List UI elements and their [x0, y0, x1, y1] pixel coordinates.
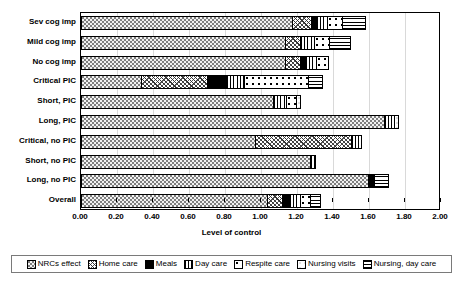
bar-segment: [308, 75, 322, 89]
x-axis-tickmark: [440, 198, 441, 202]
x-axis-tickmark: [260, 198, 261, 202]
x-axis-tick: 0.00: [60, 212, 100, 221]
chart-container: Sev cog impMild cog impNo cog impCritica…: [0, 0, 463, 281]
bar-segment: [351, 135, 362, 149]
bar-segment: [327, 16, 343, 30]
plot-area: [80, 12, 440, 210]
bar-segment: [310, 155, 315, 169]
legend-label: Home care: [99, 259, 138, 269]
x-axis-tickmark: [224, 198, 225, 202]
bar-segment: [316, 56, 329, 70]
x-axis-tick: 1.00: [240, 212, 280, 221]
x-axis-tickmark: [152, 198, 153, 202]
bar-row: [81, 115, 399, 129]
y-axis-label: Critical PIC: [0, 76, 76, 86]
x-axis-tickmark: [404, 198, 405, 202]
x-axis-tick: 1.60: [348, 212, 388, 221]
bar-segment: [81, 16, 293, 30]
legend-label: NRCs effect: [38, 259, 81, 269]
y-axis-label: Long, no PIC: [0, 175, 76, 185]
bar-segment: [394, 115, 399, 129]
bar-segment: [81, 174, 369, 188]
x-axis-tick: 0.60: [168, 212, 208, 221]
bar-segment: [285, 56, 301, 70]
legend-item[interactable]: NRCs effect: [27, 259, 81, 269]
legend-label: Meals: [156, 259, 177, 269]
legend-item[interactable]: Respite care: [234, 259, 290, 269]
bar-row: [81, 36, 351, 50]
bar-row: [81, 75, 323, 89]
bar-segment: [292, 16, 312, 30]
x-axis-tickmark: [332, 198, 333, 202]
x-axis-tickmark: [116, 198, 117, 202]
bar-row: [81, 155, 316, 169]
x-axis-tick: 2.00: [420, 212, 460, 221]
x-axis-tickmark: [368, 198, 369, 202]
bar-segment: [81, 95, 274, 109]
y-axis-label: Overall: [0, 195, 76, 205]
bar-segment: [342, 16, 365, 30]
y-axis-label: Long, PIC: [0, 116, 76, 126]
legend-swatch-icon: [363, 260, 372, 269]
bar-segment: [374, 174, 388, 188]
bar-segment: [81, 75, 142, 89]
bar-segment: [81, 155, 311, 169]
legend-swatch-icon: [27, 260, 36, 269]
bar-row: [81, 174, 389, 188]
bar-segment: [255, 135, 352, 149]
bar-segment: [300, 36, 314, 50]
x-axis-tick: 1.80: [384, 212, 424, 221]
bar-row: [81, 16, 366, 30]
legend-swatch-icon: [234, 260, 243, 269]
legend-item[interactable]: Home care: [88, 259, 138, 269]
bar-segment: [81, 115, 385, 129]
bar-segment: [141, 75, 208, 89]
legend-label: Respite care: [245, 259, 290, 269]
y-axis-label: Short, no PIC: [0, 156, 76, 166]
y-axis-label: Sev cog imp: [0, 17, 76, 27]
bar-segment: [285, 36, 301, 50]
legend-item[interactable]: Meals: [145, 259, 177, 269]
bar-row: [81, 56, 329, 70]
bar-segment: [81, 135, 256, 149]
bars-layer: [81, 13, 439, 209]
legend-swatch-icon: [184, 260, 193, 269]
legend-label: Day care: [195, 259, 227, 269]
x-axis-title: Level of control: [0, 228, 463, 237]
bar-segment: [81, 194, 268, 208]
x-axis-tickmark: [188, 198, 189, 202]
x-axis-tick: 1.20: [276, 212, 316, 221]
x-axis-tickmark: [296, 198, 297, 202]
bar-segment: [310, 194, 321, 208]
legend-label: Nursing visits: [308, 259, 356, 269]
bar-row: [81, 95, 301, 109]
bar-segment: [314, 36, 330, 50]
bar-segment: [273, 95, 287, 109]
x-axis-tick: 0.80: [204, 212, 244, 221]
bar-segment: [81, 36, 286, 50]
y-axis-label: Critical, no PIC: [0, 136, 76, 146]
x-axis-tickmark: [80, 198, 81, 202]
bar-segment: [267, 194, 283, 208]
x-axis-tick: 0.40: [132, 212, 172, 221]
bar-segment: [329, 36, 351, 50]
bar-segment: [296, 95, 301, 109]
bar-segment: [226, 75, 246, 89]
legend-label: Nursing, day care: [374, 259, 437, 269]
x-axis-tick: 1.40: [312, 212, 352, 221]
bar-row: [81, 135, 362, 149]
chart-legend: NRCs effectHome careMealsDay careRespite…: [11, 255, 452, 273]
legend-swatch-icon: [145, 260, 154, 269]
bar-segment: [244, 75, 309, 89]
legend-item[interactable]: Day care: [184, 259, 227, 269]
bar-segment: [207, 75, 227, 89]
x-axis-tick-labels: 0.000.200.400.600.801.001.201.401.601.80…: [0, 212, 463, 224]
legend-item[interactable]: Nursing, day care: [363, 259, 437, 269]
y-axis-label: No cog imp: [0, 57, 76, 67]
bar-segment: [81, 56, 286, 70]
y-axis-label: Short, PIC: [0, 96, 76, 106]
y-axis-label: Mild cog imp: [0, 37, 76, 47]
legend-item[interactable]: Nursing visits: [297, 259, 356, 269]
x-axis-tick: 0.20: [96, 212, 136, 221]
legend-swatch-icon: [88, 260, 97, 269]
